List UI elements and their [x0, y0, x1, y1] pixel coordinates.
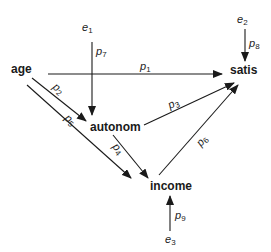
node-income: income: [150, 179, 192, 193]
label-p1: p1: [139, 60, 151, 74]
node-age: age: [11, 62, 32, 76]
edge-autonom-satis: [144, 83, 234, 125]
label-p3: p3: [165, 95, 182, 113]
label-p7: p7: [95, 45, 107, 59]
label-p2: p2: [49, 80, 67, 99]
label-p9: p9: [174, 209, 186, 223]
error-e1: e1: [82, 21, 93, 35]
node-satis: satis: [230, 63, 258, 77]
path-diagram: age autonom income satis e1 e2 e3 p1 p7 …: [0, 0, 271, 252]
label-p6: p6: [193, 132, 212, 150]
label-p8: p8: [248, 37, 260, 51]
node-autonom: autonom: [90, 120, 141, 134]
error-e3: e3: [165, 233, 176, 247]
error-e2: e2: [237, 13, 248, 27]
